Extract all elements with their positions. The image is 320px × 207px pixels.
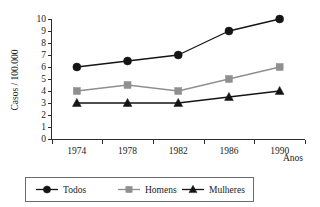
x-axis-title: Anos [283, 153, 303, 163]
y-tick-label: 6 [41, 62, 46, 72]
x-tick-label: 1986 [219, 146, 238, 156]
y-tick-label: 1 [41, 122, 46, 132]
legend-label: Todos [63, 185, 86, 195]
y-axis-ticks [48, 20, 52, 140]
y-tick-label: 2 [41, 110, 46, 120]
y-tick-label: 8 [41, 38, 46, 48]
series-line [77, 19, 280, 67]
y-tick-label: 4 [41, 86, 46, 96]
data-point-marker [124, 57, 132, 65]
data-point-marker [174, 51, 182, 59]
y-tick-label: 5 [41, 74, 46, 84]
x-tick-label: 1978 [118, 146, 137, 156]
legend-item-todos[interactable]: Todos [36, 185, 86, 195]
series-todos [73, 15, 284, 71]
data-point-marker [276, 64, 283, 71]
series-homens [73, 64, 283, 95]
legend-label: Mulheres [209, 185, 245, 195]
y-tick-label: 9 [41, 26, 46, 36]
y-tick-label: 7 [41, 50, 46, 60]
legend-item-homens[interactable]: Homens [118, 185, 177, 195]
data-point-marker [73, 88, 80, 95]
data-point-marker [175, 88, 182, 95]
circle-marker-icon [43, 186, 50, 193]
x-tick-label: 1982 [169, 146, 188, 156]
series-layer [72, 15, 284, 106]
y-tick-label: 3 [41, 98, 46, 108]
legend-item-mulheres[interactable]: Mulheres [182, 185, 245, 195]
data-point-marker [276, 15, 284, 23]
line-chart: Casos / 100.000 012345678910 19741978198… [0, 0, 320, 207]
x-tick-label: 1974 [67, 146, 86, 156]
square-marker-icon [126, 186, 132, 192]
x-axis-tick-labels: 19741978198219861990 [67, 146, 289, 156]
data-point-marker [225, 76, 232, 83]
data-point-marker [73, 63, 81, 71]
y-tick-label: 10 [37, 14, 47, 24]
y-axis-title: Casos / 100.000 [10, 49, 20, 110]
chart-figure: Casos / 100.000 012345678910 19741978198… [0, 0, 320, 207]
data-point-marker [124, 82, 131, 89]
legend: TodosHomensMulheres [36, 185, 245, 195]
y-tick-label: 0 [41, 134, 46, 144]
legend-label: Homens [145, 185, 177, 195]
y-axis-tick-labels: 012345678910 [37, 14, 47, 144]
x-axis-ticks [53, 140, 306, 145]
data-point-marker [275, 86, 284, 94]
data-point-marker [225, 27, 233, 35]
